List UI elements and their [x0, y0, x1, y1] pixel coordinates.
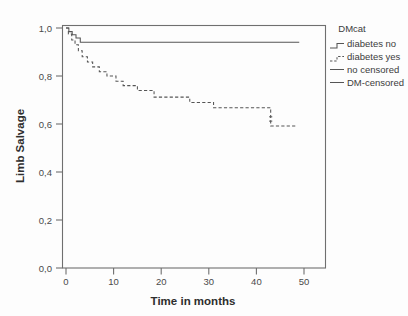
curve-diabetes-no — [66, 28, 299, 42]
legend-swatch-step-dashed — [330, 57, 344, 62]
legend-entry-no-censored[interactable]: no censored — [330, 64, 399, 75]
x-axis-title: Time in months — [151, 295, 236, 307]
legend-label: no censored — [347, 64, 399, 75]
x-tick-label: 30 — [204, 276, 215, 287]
x-tick-label: 20 — [156, 276, 167, 287]
y-tick-label: 1,0 — [39, 23, 52, 34]
plot-frame — [63, 26, 326, 269]
data-curves — [66, 28, 299, 126]
y-tick-label: 0,4 — [39, 167, 52, 178]
chart-canvas: 1,0 0,8 0,6 0,4 0,2 0,0 0 10 20 30 40 50… — [0, 0, 408, 316]
x-tick-label: 0 — [63, 276, 68, 287]
legend-entry-dm-censored[interactable]: DM-censored — [330, 77, 404, 88]
y-tick-label: 0,0 — [39, 263, 52, 274]
x-tick-label: 10 — [108, 276, 119, 287]
x-axis-tick-labels: 0 10 20 30 40 50 — [63, 276, 309, 287]
y-tick-label: 0,6 — [39, 119, 52, 130]
legend-label: diabetes no — [347, 38, 396, 49]
legend-swatch-step-solid — [330, 44, 344, 49]
chart-legend: DMcat diabetes no diabetes yes no censor… — [330, 23, 404, 88]
curve-diabetes-yes — [66, 28, 297, 126]
y-tick-label: 0,8 — [39, 71, 52, 82]
x-tick-label: 40 — [251, 276, 262, 287]
chart-figure: 1,0 0,8 0,6 0,4 0,2 0,0 0 10 20 30 40 50… — [0, 0, 408, 316]
x-axis-ticks — [66, 268, 304, 275]
legend-label: DM-censored — [347, 77, 404, 88]
y-tick-label: 0,2 — [39, 215, 52, 226]
x-tick-label: 50 — [299, 276, 310, 287]
legend-title: DMcat — [338, 23, 366, 34]
legend-entry-diabetes-no[interactable]: diabetes no — [330, 38, 396, 49]
legend-label: diabetes yes — [347, 51, 401, 62]
y-axis-ticks — [56, 28, 63, 268]
y-axis-title: Limb Salvage — [14, 109, 26, 183]
y-axis-tick-labels: 1,0 0,8 0,6 0,4 0,2 0,0 — [39, 23, 52, 274]
legend-entry-diabetes-yes[interactable]: diabetes yes — [330, 51, 401, 62]
